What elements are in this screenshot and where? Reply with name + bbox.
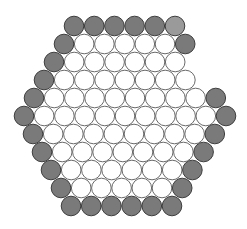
interior-circle — [52, 142, 72, 162]
interior-circle — [64, 52, 84, 72]
boundary-circle — [41, 160, 61, 180]
interior-circle — [95, 70, 115, 90]
interior-circle — [125, 88, 145, 108]
boundary-circle — [54, 34, 74, 54]
interior-circle — [115, 34, 135, 54]
interior-circle — [75, 106, 95, 126]
interior-circle — [54, 70, 74, 90]
boundary-circle — [194, 142, 214, 162]
interior-circle — [44, 88, 64, 108]
boundary-circle — [206, 88, 226, 108]
boundary-circle — [205, 124, 225, 144]
interior-circle — [174, 142, 194, 162]
interior-circle — [155, 34, 175, 54]
interior-circle — [155, 70, 175, 90]
interior-circle — [162, 160, 182, 180]
interior-circle — [105, 52, 125, 72]
interior-circle — [176, 106, 196, 126]
interior-circle — [95, 34, 115, 54]
interior-circle — [92, 178, 112, 198]
interior-circle — [85, 52, 105, 72]
interior-circle — [135, 34, 155, 54]
interior-circle — [124, 124, 144, 144]
interior-circle — [145, 52, 165, 72]
interior-circle — [73, 142, 93, 162]
boundary-circle — [51, 178, 71, 198]
boundary-circle — [61, 196, 81, 216]
interior-circle — [55, 106, 75, 126]
boundary-circle — [175, 34, 195, 54]
interior-circle — [132, 178, 152, 198]
boundary-circle — [44, 52, 64, 72]
boundary-circle — [84, 16, 104, 36]
boundary-circle — [24, 88, 44, 108]
interior-circle — [153, 142, 173, 162]
interior-circle — [93, 142, 113, 162]
interior-circle — [115, 70, 135, 90]
interior-circle — [142, 160, 162, 180]
interior-circle — [95, 106, 115, 126]
interior-circle — [74, 34, 94, 54]
interior-circle — [165, 52, 185, 72]
boundary-circle — [172, 178, 192, 198]
interior-circle — [75, 70, 95, 90]
interior-circle — [84, 124, 104, 144]
boundary-circle — [142, 196, 162, 216]
boundary-circle — [64, 16, 84, 36]
boundary-circle — [183, 160, 203, 180]
boundary-circle — [105, 16, 125, 36]
interior-circle — [166, 88, 186, 108]
interior-circle — [176, 70, 196, 90]
boundary-circle — [125, 16, 145, 36]
boundary-circle — [102, 196, 122, 216]
boundary-circle — [32, 142, 52, 162]
interior-circle — [105, 88, 125, 108]
interior-circle — [104, 124, 124, 144]
interior-circle — [85, 88, 105, 108]
hexagonal-packing-svg — [0, 0, 247, 229]
interior-circle — [34, 106, 54, 126]
boundary-circle — [145, 16, 165, 36]
boundary-circle — [81, 196, 101, 216]
interior-circle — [43, 124, 63, 144]
interior-circle — [102, 160, 122, 180]
interior-circle — [64, 124, 84, 144]
interior-circle — [165, 124, 185, 144]
interior-circle — [152, 178, 172, 198]
circle-packing-diagram — [0, 0, 247, 229]
boundary-circle — [216, 106, 236, 126]
interior-circle — [156, 106, 176, 126]
interior-circle — [61, 160, 81, 180]
interior-circle — [82, 160, 102, 180]
interior-circle — [112, 178, 132, 198]
boundary-circle — [14, 106, 34, 126]
interior-circle — [113, 142, 133, 162]
boundary-circle — [162, 196, 182, 216]
interior-circle — [185, 124, 205, 144]
interior-circle — [186, 88, 206, 108]
interior-circle — [144, 124, 164, 144]
interior-circle — [145, 88, 165, 108]
boundary-circle — [23, 124, 43, 144]
interior-circle — [122, 160, 142, 180]
interior-circle — [135, 106, 155, 126]
boundary-circle-light — [165, 16, 185, 36]
interior-circle — [71, 178, 91, 198]
interior-circle — [115, 106, 135, 126]
interior-circle — [125, 52, 145, 72]
boundary-circle — [122, 196, 142, 216]
interior-circle — [65, 88, 85, 108]
interior-circle — [135, 70, 155, 90]
boundary-circle — [34, 70, 54, 90]
interior-circle — [196, 106, 216, 126]
interior-circle — [133, 142, 153, 162]
